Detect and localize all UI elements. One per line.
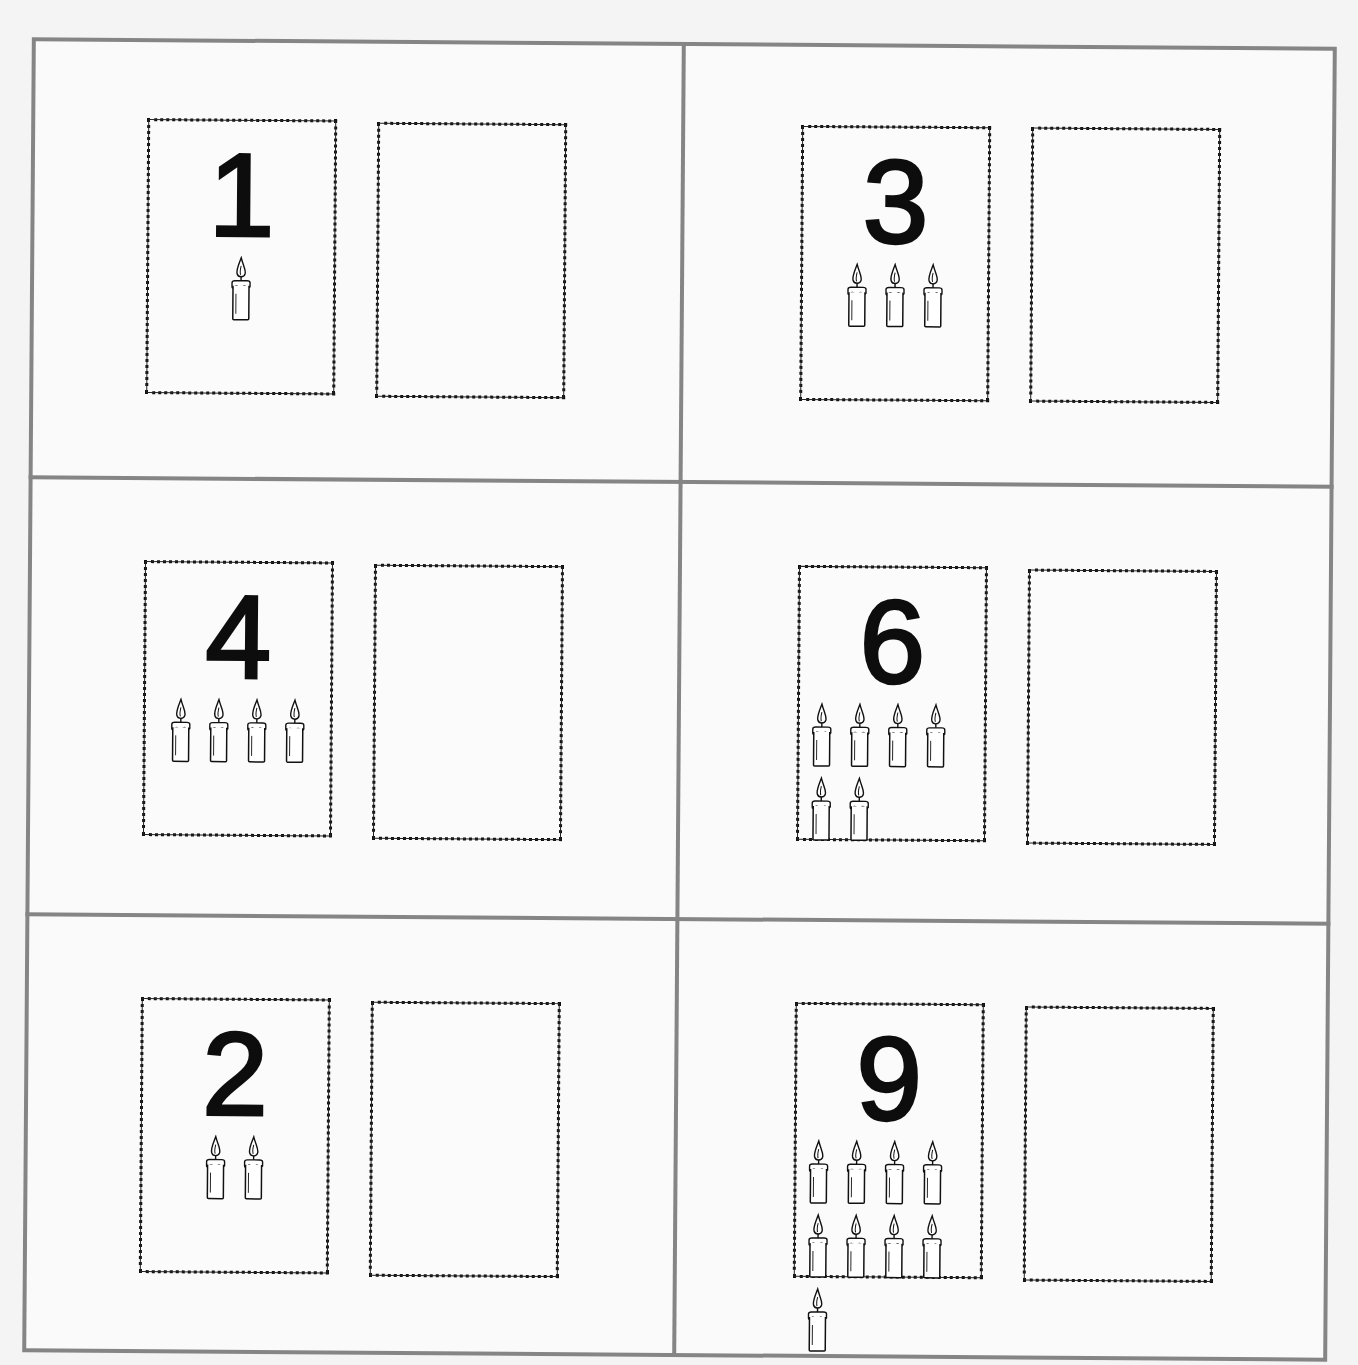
candle-icon bbox=[169, 697, 193, 763]
numeral: 3 bbox=[803, 142, 988, 261]
candle-icon bbox=[806, 1139, 830, 1205]
candle-icon bbox=[283, 698, 307, 764]
candle-icon bbox=[809, 776, 833, 842]
blank-answer-card[interactable] bbox=[369, 1001, 561, 1278]
numeral: 4 bbox=[146, 577, 331, 696]
number-card: 9 bbox=[793, 1002, 985, 1279]
cell-1: 1 bbox=[29, 37, 682, 479]
candle-icon bbox=[883, 262, 907, 328]
number-card: 1 bbox=[145, 118, 337, 395]
number-card: 6 bbox=[796, 565, 988, 842]
candle-icon bbox=[921, 263, 945, 329]
candle-icon bbox=[920, 1214, 944, 1280]
candle-group bbox=[150, 1134, 318, 1201]
blank-answer-card[interactable] bbox=[375, 122, 567, 399]
numeral: 6 bbox=[800, 582, 985, 701]
candle-group bbox=[157, 255, 325, 322]
candle-icon bbox=[806, 1213, 830, 1279]
candle-icon bbox=[845, 262, 869, 328]
numeral: 2 bbox=[143, 1014, 328, 1133]
candle-icon bbox=[847, 776, 871, 842]
candle-group bbox=[807, 702, 976, 843]
candle-icon bbox=[882, 1140, 906, 1206]
number-card: 4 bbox=[142, 560, 334, 837]
cell-3: 4 bbox=[25, 479, 678, 921]
candle-icon bbox=[885, 703, 909, 769]
candle-group bbox=[154, 697, 322, 764]
blank-answer-card[interactable] bbox=[372, 564, 564, 841]
blank-answer-card[interactable] bbox=[1026, 569, 1218, 846]
candle-icon bbox=[844, 1213, 868, 1279]
cell-2: 3 bbox=[683, 42, 1336, 484]
candle-icon bbox=[245, 698, 269, 764]
worksheet: 1 3 4 6 2 9 bbox=[22, 37, 1337, 1362]
cell-6: 9 bbox=[676, 921, 1329, 1363]
number-card: 2 bbox=[139, 997, 331, 1274]
candle-icon bbox=[241, 1135, 265, 1201]
candle-icon bbox=[810, 702, 834, 768]
candle-icon bbox=[923, 703, 947, 769]
candle-icon bbox=[229, 256, 253, 322]
cell-5: 2 bbox=[22, 916, 675, 1358]
number-card: 3 bbox=[799, 125, 991, 402]
candle-icon bbox=[203, 1135, 227, 1201]
numeral: 1 bbox=[149, 135, 334, 254]
blank-answer-card[interactable] bbox=[1023, 1006, 1215, 1283]
candle-icon bbox=[920, 1140, 944, 1206]
numeral: 9 bbox=[797, 1019, 982, 1138]
candle-icon bbox=[207, 698, 231, 764]
candle-group bbox=[811, 262, 979, 329]
blank-answer-card[interactable] bbox=[1029, 127, 1221, 404]
candle-icon bbox=[844, 1139, 868, 1205]
cell-4: 6 bbox=[679, 484, 1332, 926]
candle-icon bbox=[882, 1214, 906, 1280]
candle-icon bbox=[805, 1287, 829, 1353]
candle-group bbox=[803, 1139, 973, 1354]
candle-icon bbox=[848, 702, 872, 768]
